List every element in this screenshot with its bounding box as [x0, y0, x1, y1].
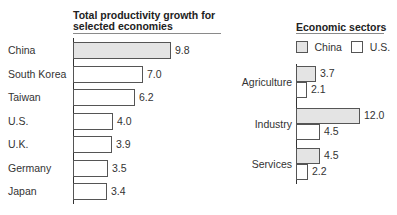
category-label: South Korea — [8, 68, 66, 80]
category-label: Germany — [8, 162, 51, 174]
category-label: Taiwan — [8, 91, 41, 103]
bar-china — [296, 66, 316, 82]
bar-china — [296, 108, 360, 124]
right-title-rule — [296, 33, 384, 34]
right-chart-title: Economic sectors — [296, 22, 386, 33]
bar — [73, 160, 108, 177]
legend-label-china: China — [314, 41, 341, 53]
legend-swatch-china — [296, 41, 308, 53]
bar-us — [296, 164, 308, 180]
value-label: 9.8 — [175, 44, 190, 56]
bar — [73, 183, 107, 200]
category-label: China — [8, 44, 35, 56]
sector-label: Agriculture — [242, 76, 292, 88]
bar — [73, 136, 112, 153]
value-label: 3.4 — [111, 185, 126, 197]
bar — [73, 113, 113, 130]
bar-us — [296, 82, 307, 98]
sector-label: Industry — [255, 118, 292, 130]
bar — [73, 89, 135, 106]
left-chart-title: Total productivity growth for selected e… — [73, 10, 223, 32]
value-label-us: 4.5 — [324, 125, 339, 137]
category-label: U.K. — [8, 138, 28, 150]
bar — [73, 66, 143, 83]
bar-us — [296, 124, 320, 140]
value-label: 6.2 — [139, 91, 154, 103]
value-label-china: 12.0 — [364, 109, 384, 121]
left-title-rule — [73, 33, 221, 34]
legend-label-us: U.S. — [370, 41, 390, 53]
value-label-china: 4.5 — [324, 149, 339, 161]
bar-china — [296, 148, 320, 164]
value-label-china: 3.7 — [320, 67, 335, 79]
value-label-us: 2.2 — [312, 165, 327, 177]
legend-swatch-us — [351, 41, 363, 53]
legend: China U.S. — [296, 37, 390, 55]
category-label: Japan — [8, 185, 37, 197]
bar — [73, 42, 171, 59]
value-label-us: 2.1 — [311, 83, 326, 95]
sector-label: Services — [252, 158, 292, 170]
category-label: U.S. — [8, 115, 28, 127]
value-label: 7.0 — [147, 68, 162, 80]
value-label: 3.5 — [112, 162, 127, 174]
value-label: 3.9 — [116, 138, 131, 150]
value-label: 4.0 — [117, 115, 132, 127]
